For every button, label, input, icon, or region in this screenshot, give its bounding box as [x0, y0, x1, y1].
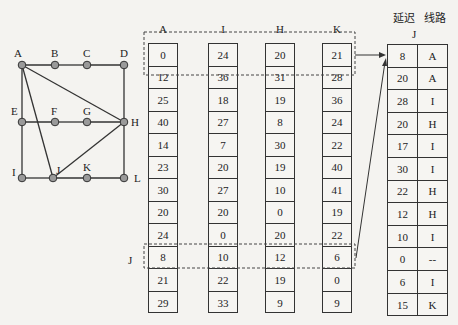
- new-table-title: J: [412, 28, 416, 40]
- line-cell: H: [418, 113, 447, 135]
- header-line: 线路: [424, 12, 446, 24]
- delay-cell: 10: [388, 226, 418, 248]
- line-cell: I: [418, 158, 447, 180]
- table-row: 17I: [388, 135, 447, 158]
- table-row: 20H: [388, 113, 447, 136]
- line-cell: H: [418, 181, 447, 203]
- line-cell: H: [418, 203, 447, 225]
- line-cell: I: [418, 226, 447, 248]
- arrow-j-to-table: [356, 62, 385, 258]
- delay-cell: 20: [388, 68, 418, 90]
- table-row: 0--: [388, 248, 447, 271]
- new-routing-table: 8A20A28I20H17I30I22H12H10I0--6I15K: [387, 44, 448, 316]
- table-row: 22H: [388, 181, 447, 204]
- table-row: 30I: [388, 158, 447, 181]
- arrow-head-icon: [379, 52, 386, 58]
- table-row: 10I: [388, 226, 447, 249]
- delay-cell: 15: [388, 294, 418, 317]
- line-cell: I: [418, 90, 447, 112]
- delay-cell: 30: [388, 158, 418, 180]
- delay-cell: 6: [388, 271, 418, 293]
- delay-cell: 0: [388, 248, 418, 270]
- line-cell: --: [418, 248, 447, 270]
- delay-cell: 12: [388, 203, 418, 225]
- new-table-headers: 延迟 线路: [393, 9, 446, 25]
- delay-cell: 17: [388, 135, 418, 157]
- delay-cell: 28: [388, 90, 418, 112]
- line-cell: A: [418, 68, 447, 90]
- row-a-highlight: [144, 32, 355, 75]
- table-row: 28I: [388, 90, 447, 113]
- table-row: 6I: [388, 271, 447, 294]
- header-delay: 延迟: [393, 12, 415, 24]
- row-j-highlight: [144, 244, 355, 268]
- table-row: 12H: [388, 203, 447, 226]
- line-cell: K: [418, 294, 447, 317]
- line-cell: A: [418, 45, 447, 67]
- table-row: 15K: [388, 294, 447, 317]
- line-cell: I: [418, 135, 447, 157]
- delay-cell: 20: [388, 113, 418, 135]
- table-row: 20A: [388, 68, 447, 91]
- delay-cell: 8: [388, 45, 418, 67]
- table-row: 8A: [388, 45, 447, 68]
- line-cell: I: [418, 271, 447, 293]
- delay-cell: 22: [388, 181, 418, 203]
